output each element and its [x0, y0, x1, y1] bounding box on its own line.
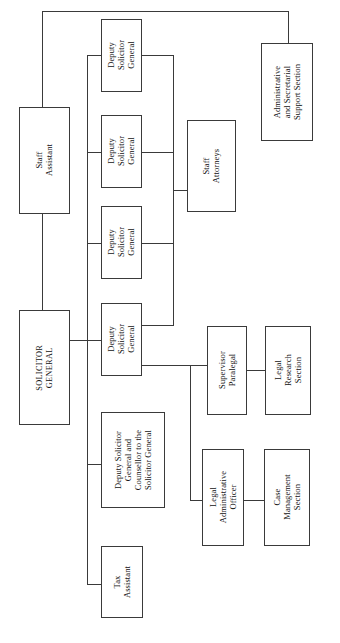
node-deputy-solicitor-general-2-label: Deputy Solicitor General	[106, 136, 136, 166]
connector-admin-support-down	[288, 11, 289, 43]
connector-sg-stub	[70, 340, 88, 341]
node-deputy-solicitor-general-3[interactable]: Deputy Solicitor General	[101, 206, 142, 279]
connector-paralegal-to-research	[247, 370, 265, 371]
connector-deputy-2-out	[141, 152, 174, 153]
connector-officer-to-case-mgmt	[244, 500, 264, 501]
node-tax-assistant[interactable]: Tax Assistant	[101, 546, 143, 618]
node-legal-research-section-label: Legal Research Section	[273, 355, 303, 387]
node-supervisor-paralegal-label: Supervisor Paralegal	[217, 352, 237, 390]
node-deputy-solicitor-general-4-label: Deputy Solicitor General	[106, 324, 136, 354]
connector-spine-to-deputy-1	[87, 55, 101, 56]
connector-top-rail	[42, 11, 289, 12]
node-case-management-section-label: Case Management Section	[272, 475, 302, 520]
node-deputy-solicitor-general-4[interactable]: Deputy Solicitor General	[101, 303, 142, 376]
connector-main-spine	[87, 55, 88, 584]
org-chart: SOLICITOR GENERAL Staff Assistant Admini…	[0, 0, 340, 643]
node-deputy-solicitor-general-3-label: Deputy Solicitor General	[106, 227, 136, 257]
connector-spine-to-deputy-4	[87, 340, 101, 341]
node-deputy-solicitor-general-1-label: Deputy Solicitor General	[106, 40, 136, 70]
node-supervisor-paralegal[interactable]: Supervisor Paralegal	[207, 326, 247, 415]
connector-rail-to-staff-attorneys	[173, 190, 187, 191]
node-staff-assistant[interactable]: Staff Assistant	[19, 107, 70, 214]
node-legal-administrative-officer[interactable]: Legal Administrative Officer	[202, 449, 244, 546]
connector-spine-to-deputy-2	[87, 152, 101, 153]
connector-paralegal-officer-rail	[190, 365, 191, 500]
connector-deputy-4-out	[141, 325, 174, 326]
connector-deputy-3-out	[141, 243, 174, 244]
node-legal-research-section[interactable]: Legal Research Section	[265, 326, 311, 415]
node-tax-assistant-label: Tax Assistant	[112, 566, 132, 598]
connector-rail-to-legal-admin-officer	[190, 500, 202, 501]
node-admin-secretarial-support-section-label: Administrative and Secretarial Support S…	[272, 64, 302, 120]
connector-spine-to-deputy-3	[87, 243, 101, 244]
node-staff-attorneys-label: Staff Attorneys	[201, 149, 221, 183]
connector-staff-assistant-up	[42, 11, 43, 107]
connector-spine-to-deputy-counsellor	[87, 464, 101, 465]
connector-deputy-1-out	[141, 55, 174, 56]
connector-rail-to-supervisor-paralegal	[190, 365, 207, 366]
node-solicitor-general-label: SOLICITOR GENERAL	[35, 345, 55, 391]
connector-deputy-4-branch-out	[141, 365, 191, 366]
node-admin-secretarial-support-section[interactable]: Administrative and Secretarial Support S…	[261, 43, 313, 141]
node-deputy-solicitor-general-2[interactable]: Deputy Solicitor General	[101, 115, 142, 188]
node-staff-attorneys[interactable]: Staff Attorneys	[187, 120, 236, 212]
connector-sg-to-staff-assistant	[42, 214, 43, 310]
node-deputy-solicitor-general-1[interactable]: Deputy Solicitor General	[101, 19, 142, 92]
node-case-management-section[interactable]: Case Management Section	[264, 449, 310, 546]
node-legal-administrative-officer-label: Legal Administrative Officer	[208, 471, 238, 523]
node-deputy-solicitor-general-counsellor[interactable]: Deputy Solicitor General and Counsellor …	[101, 412, 165, 508]
connector-spine-to-tax-assistant	[87, 584, 101, 585]
node-staff-assistant-label: Staff Assistant	[34, 144, 54, 176]
node-deputy-solicitor-general-counsellor-label: Deputy Solicitor General and Counsellor …	[113, 430, 153, 490]
node-solicitor-general[interactable]: SOLICITOR GENERAL	[19, 310, 70, 425]
